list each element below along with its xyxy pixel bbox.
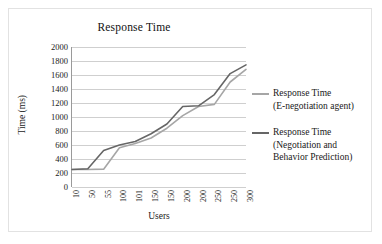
gridline (72, 187, 246, 188)
x-tick-label: 101 (135, 190, 144, 202)
y-tick-label: 200 (34, 168, 68, 178)
legend-label: Response Time(E-negotiation agent) (273, 87, 370, 112)
x-tick-label: 10 (72, 190, 81, 198)
x-tick-label: 300 (246, 190, 255, 202)
x-tick-label: 150 (151, 190, 160, 202)
x-tick-label: 50 (88, 190, 97, 198)
legend-label: Response Time(Negotiation andBehavior Pr… (273, 126, 370, 164)
y-tick-label: 800 (34, 126, 68, 136)
x-tick-label: 55 (104, 190, 113, 198)
x-tick-label: 250 (214, 190, 223, 202)
legend-entry-1[interactable]: Response Time(E-negotiation agent) (252, 87, 370, 112)
legend-label-line: (E-negotiation agent) (273, 100, 370, 113)
y-tick-label: 1200 (34, 98, 68, 108)
x-tick-label: 250 (230, 190, 239, 202)
y-axis-title: Time (ms) (17, 95, 27, 135)
legend-label-line: Response Time (273, 87, 370, 100)
chart-legend: Response Time(E-negotiation agent)Respon… (252, 87, 370, 178)
y-tick-label: 400 (34, 154, 68, 164)
chart-title: Response Time (9, 21, 259, 33)
chart-container: Response Time 02004006008001000120014001… (8, 8, 372, 232)
x-axis-title: Users (72, 211, 246, 221)
y-tick-label: 600 (34, 140, 68, 150)
x-tick-label: 200 (199, 190, 208, 202)
plot-area: 0200400600800100012001400160018002000 10… (72, 47, 246, 187)
y-tick-label: 1000 (34, 112, 68, 122)
series-lines (72, 47, 246, 187)
legend-label-line: (Negotiation and (273, 139, 370, 152)
legend-label-line: Behavior Prediction) (273, 151, 370, 164)
y-tick-label: 1400 (34, 84, 68, 94)
y-tick-label: 1800 (34, 56, 68, 66)
x-tick-label: 200 (183, 190, 192, 202)
series-line-2 (72, 65, 246, 170)
legend-line-swatch (252, 93, 269, 95)
legend-entry-2[interactable]: Response Time(Negotiation andBehavior Pr… (252, 126, 370, 164)
y-tick-label: 0 (34, 182, 68, 192)
series-line-1 (72, 69, 246, 169)
legend-label-line: Response Time (273, 126, 370, 139)
y-tick-label: 2000 (34, 42, 68, 52)
y-tick-label: 1600 (34, 70, 68, 80)
legend-line-swatch (252, 132, 269, 134)
x-tick-label: 100 (119, 190, 128, 202)
x-tick-label: 150 (167, 190, 176, 202)
